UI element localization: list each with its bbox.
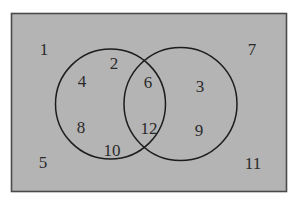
venn-label-5: 5 [39,154,48,171]
venn-label-4: 4 [78,73,87,90]
venn-label-12: 12 [141,120,158,137]
venn-label-9: 9 [195,122,204,139]
venn-label-6: 6 [144,74,153,91]
venn-diagram-canvas [0,0,296,206]
venn-label-10: 10 [104,142,121,159]
venn-label-11: 11 [245,155,261,172]
venn-label-8: 8 [77,119,86,136]
venn-label-3: 3 [196,78,205,95]
venn-label-7: 7 [248,41,257,58]
venn-diagram-figure: 123456789101112 [0,0,296,206]
venn-label-1: 1 [40,41,49,58]
venn-label-2: 2 [110,55,119,72]
